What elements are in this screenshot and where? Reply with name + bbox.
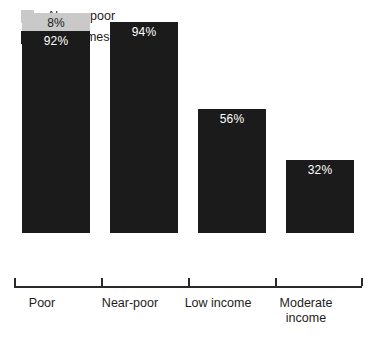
bar-segment-sometimes-poor: 94% [110, 22, 178, 233]
x-axis-tick [14, 278, 16, 286]
bar-value-label-92: 92% [44, 31, 69, 47]
bar-stack-low-income: 56% [198, 109, 266, 233]
bar-value-label-8: 8% [47, 13, 65, 29]
x-axis-label-line: Near-poor [80, 296, 180, 311]
bar-segment-sometimes-poor: 32% [286, 160, 354, 233]
x-axis-tick [101, 278, 103, 286]
x-axis-label-low-income: Low income [168, 296, 268, 311]
x-axis-line [14, 286, 362, 288]
x-axis-label-line: Moderate [256, 296, 356, 311]
bar-stack-poor: 8% 92% [22, 13, 90, 233]
bar-value-label-94: 94% [132, 22, 157, 38]
x-axis-label-line: Poor [0, 296, 92, 311]
x-axis [14, 286, 362, 295]
x-axis-label-moderate-income: Moderateincome [256, 296, 356, 326]
bar-segment-sometimes-poor: 92% [22, 31, 90, 233]
x-axis-label-near-poor: Near-poor [80, 296, 180, 311]
bar-stack-moderate-income: 32% [286, 160, 354, 233]
x-axis-label-poor: Poor [0, 296, 92, 311]
x-axis-category-labels: PoorNear-poorLow incomeModerateincome [14, 296, 362, 342]
x-axis-tick [275, 278, 277, 286]
x-axis-tick [188, 278, 190, 286]
x-axis-tick [361, 278, 363, 286]
bar-segment-always-poor: 8% [22, 13, 90, 31]
bar-chart: Always poor Sometimes poor 8% 92% 94% [0, 0, 371, 342]
bar-value-label-32: 32% [308, 160, 333, 176]
bar-stack-near-poor: 94% [110, 22, 178, 233]
x-axis-label-line: income [256, 311, 356, 326]
bar-segment-sometimes-poor: 56% [198, 109, 266, 233]
x-axis-label-line: Low income [168, 296, 268, 311]
bar-value-label-56: 56% [220, 109, 245, 125]
plot-area: 8% 92% 94% 56% [0, 0, 371, 288]
